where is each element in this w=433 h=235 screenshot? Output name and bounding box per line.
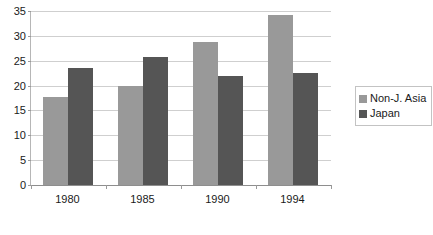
bar-japan-1990 (218, 76, 243, 185)
legend-item-non-j-asia[interactable]: Non-J. Asia (359, 91, 426, 106)
legend-swatch-icon (359, 110, 367, 118)
legend-label: Japan (370, 108, 400, 119)
y-axis-tick-label: 5 (2, 155, 26, 166)
legend-item-japan[interactable]: Japan (359, 106, 426, 121)
y-axis-tick-label: 25 (2, 56, 26, 67)
x-axis-tick (181, 185, 182, 189)
y-axis-tick (28, 135, 31, 136)
x-axis-tick-label: 1994 (263, 194, 323, 205)
x-axis-tick (256, 185, 257, 189)
legend-swatch-icon (359, 95, 367, 103)
bar-non-j-asia-1990 (193, 42, 218, 185)
bar-chart: 05101520253035 1980198519901994 Non-J. A… (0, 0, 433, 235)
y-axis-tick (28, 61, 31, 62)
x-axis-tick-label: 1980 (38, 194, 98, 205)
bar-japan-1980 (68, 68, 93, 185)
bar-non-j-asia-1985 (118, 86, 143, 185)
y-axis-tick (28, 110, 31, 111)
y-axis-tick (28, 36, 31, 37)
x-axis-tick (31, 185, 32, 189)
y-axis-tick-label: 20 (2, 81, 26, 92)
bar-non-j-asia-1994 (268, 15, 293, 185)
y-axis-tick (28, 86, 31, 87)
y-axis-tick (28, 11, 31, 12)
x-axis-tick-label: 1990 (188, 194, 248, 205)
y-axis-tick-label: 30 (2, 31, 26, 42)
bar-non-j-asia-1980 (43, 97, 68, 185)
y-axis-tick-label: 10 (2, 130, 26, 141)
legend-label: Non-J. Asia (370, 93, 426, 104)
y-axis-tick-label: 0 (2, 180, 26, 191)
x-axis-tick (106, 185, 107, 189)
x-axis-tick-label: 1985 (113, 194, 173, 205)
bar-japan-1994 (293, 73, 318, 185)
y-axis-tick-label: 15 (2, 105, 26, 116)
chart-legend: Non-J. Asia Japan (355, 86, 432, 126)
y-axis-tick-label: 35 (2, 6, 26, 17)
x-axis-tick (331, 185, 332, 189)
bar-japan-1985 (143, 57, 168, 185)
y-axis-tick (28, 160, 31, 161)
gridline (31, 11, 331, 12)
